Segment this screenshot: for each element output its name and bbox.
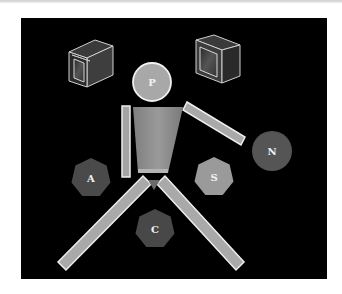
node-c[interactable]: C [136,209,175,247]
label-a: A [86,173,95,184]
node-n[interactable]: N [252,131,292,171]
left-arm [122,106,130,177]
label-n: N [267,146,276,157]
figure-diagram: P A S C N [0,0,342,294]
left-monitor-icon [69,40,113,87]
node-a[interactable]: A [72,158,111,196]
left-leg [58,176,151,270]
right-arm [183,102,245,145]
torso [133,107,183,173]
label-s: S [210,172,217,183]
label-p: P [148,77,156,88]
waist-band [138,169,168,173]
label-c: C [151,224,159,235]
node-head-p[interactable]: P [133,63,171,101]
right-monitor-icon [196,35,240,83]
node-s[interactable]: S [195,157,234,195]
